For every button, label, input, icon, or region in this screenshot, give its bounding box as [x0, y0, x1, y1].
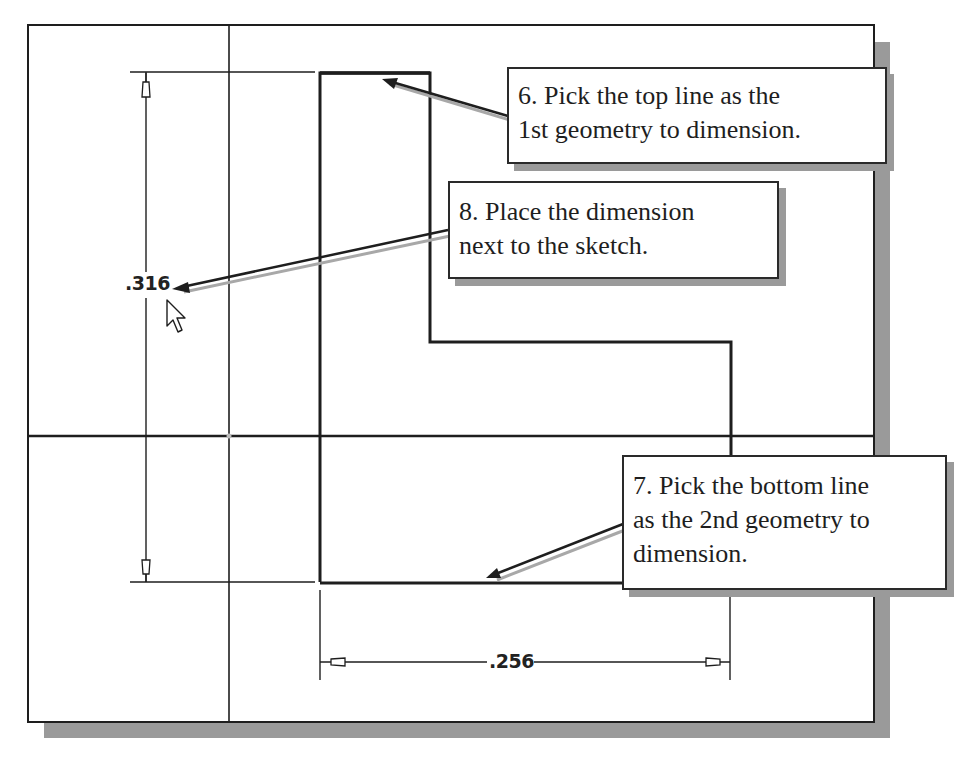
callout-step-6-line-2: 1st geometry to dimension.	[518, 113, 877, 147]
callout-step-8-line-2: next to the sketch.	[459, 229, 769, 263]
callout-step-8-line-1: 8. Place the dimension	[459, 195, 769, 229]
origin-point	[227, 434, 232, 439]
callout-step-7: 7. Pick the bottom line as the 2nd geome…	[622, 455, 947, 590]
callout-step-6: 6. Pick the top line as the 1st geometry…	[507, 67, 887, 164]
horizontal-dimension-value[interactable]: .256	[489, 650, 534, 672]
callout-step-8: 8. Place the dimension next to the sketc…	[448, 181, 779, 279]
vertical-dimension-value[interactable]: .316	[125, 272, 170, 294]
callout-step-6-line-1: 6. Pick the top line as the	[518, 79, 877, 113]
callout-step-7-line-1: 7. Pick the bottom line	[633, 469, 937, 503]
sketch-diagram: .316 .256 6. Pick the top line as the 1s…	[0, 0, 972, 760]
callout-step-7-line-3: dimension.	[633, 537, 937, 571]
callout-step-7-line-2: as the 2nd geometry to	[633, 503, 937, 537]
